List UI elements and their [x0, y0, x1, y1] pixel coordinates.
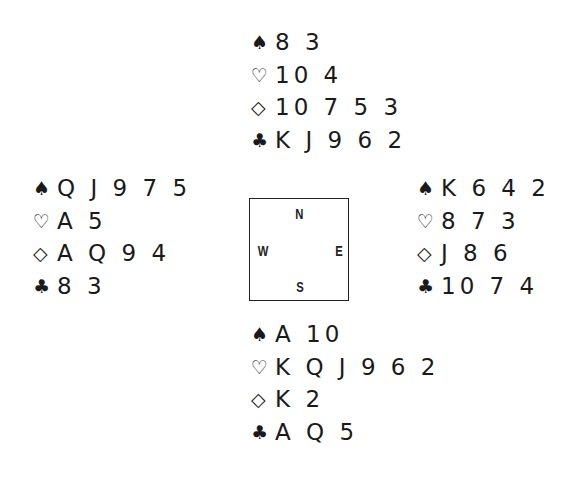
west-hearts: ♡ A 5 [33, 204, 107, 237]
diamond-icon: ◇ [251, 388, 275, 410]
east-spades-cards: K 6 4 2 [441, 175, 550, 201]
south-clubs: ♣ A Q 5 [251, 415, 358, 448]
north-clubs: ♣ K J 9 6 2 [251, 123, 406, 156]
west-clubs-cards: 8 3 [57, 273, 106, 299]
south-clubs-cards: A Q 5 [275, 419, 358, 445]
west-clubs: ♣ 8 3 [33, 269, 106, 302]
spade-icon: ♠ [417, 177, 441, 199]
club-icon: ♣ [33, 275, 57, 297]
east-clubs: ♣ 10 7 4 [417, 269, 538, 302]
spade-icon: ♠ [251, 323, 275, 345]
spade-icon: ♠ [33, 177, 57, 199]
east-hearts: ♡ 8 7 3 [417, 204, 520, 237]
north-clubs-cards: K J 9 6 2 [275, 127, 406, 153]
club-icon: ♣ [417, 275, 441, 297]
east-diamonds: ◇ J 8 6 [417, 236, 512, 269]
diamond-icon: ◇ [417, 242, 441, 264]
west-diamonds-cards: A Q 9 4 [57, 240, 170, 266]
heart-icon: ♡ [251, 64, 275, 86]
heart-icon: ♡ [251, 356, 275, 378]
south-diamonds: ◇ K 2 [251, 382, 324, 415]
north-hearts-cards: 10 4 [275, 62, 342, 88]
west-spades-cards: Q J 9 7 5 [57, 175, 191, 201]
east-hearts-cards: 8 7 3 [441, 208, 520, 234]
north-spades: ♠ 8 3 [251, 25, 324, 58]
south-spades: ♠ A 10 [251, 317, 343, 350]
diamond-icon: ◇ [33, 242, 57, 264]
heart-icon: ♡ [417, 210, 441, 232]
compass-north: N [295, 205, 303, 222]
compass-west: W [258, 242, 269, 259]
spade-icon: ♠ [251, 31, 275, 53]
compass-south: S [296, 278, 304, 295]
north-diamonds: ◇ 10 7 5 3 [251, 90, 402, 123]
compass-box: N W E S [249, 198, 349, 301]
compass-east: E [335, 242, 343, 259]
north-spades-cards: 8 3 [275, 29, 324, 55]
west-hearts-cards: A 5 [57, 208, 107, 234]
south-hearts-cards: K Q J 9 6 2 [275, 354, 439, 380]
club-icon: ♣ [251, 421, 275, 443]
north-diamonds-cards: 10 7 5 3 [275, 94, 402, 120]
south-spades-cards: A 10 [275, 321, 343, 347]
south-hearts: ♡ K Q J 9 6 2 [251, 350, 439, 383]
club-icon: ♣ [251, 129, 275, 151]
east-spades: ♠ K 6 4 2 [417, 171, 550, 204]
east-diamonds-cards: J 8 6 [441, 240, 512, 266]
west-diamonds: ◇ A Q 9 4 [33, 236, 170, 269]
north-hearts: ♡ 10 4 [251, 58, 342, 91]
heart-icon: ♡ [33, 210, 57, 232]
diamond-icon: ◇ [251, 96, 275, 118]
west-spades: ♠ Q J 9 7 5 [33, 171, 191, 204]
south-diamonds-cards: K 2 [275, 386, 324, 412]
east-clubs-cards: 10 7 4 [441, 273, 538, 299]
